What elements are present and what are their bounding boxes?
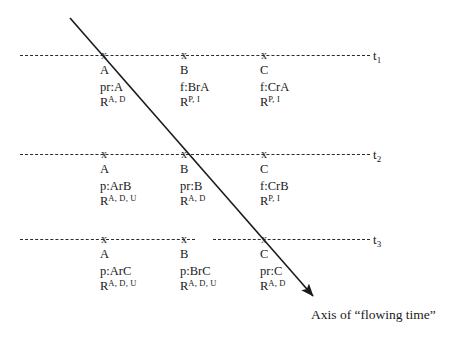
x-marker-t2-b: x [181, 148, 187, 160]
time-label-t3-sub: 3 [377, 239, 382, 249]
cell-t2-b-rset-sup: A, D [188, 193, 205, 203]
cell-t2-a-entity: A [100, 161, 137, 178]
cell-t3-b-rset-sup: A, D, U [188, 278, 216, 288]
cell-t2-a: A p:ArB RA, D, U [100, 161, 137, 210]
cell-t1-a: A pr:A RA, D [100, 62, 126, 111]
x-marker-t3-c: x [261, 233, 267, 245]
cell-t1-c: C f:CrA RP, I [260, 62, 289, 111]
cell-t3-c-rset: RA, D [260, 278, 286, 295]
cell-t3-c-rset-sup: A, D [268, 278, 285, 288]
cell-t1-c-relation: f:CrA [260, 79, 289, 96]
cell-t3-a-rset-sup: A, D, U [108, 278, 136, 288]
time-label-t3: t3 [373, 233, 381, 246]
flowing-time-axis-svg [0, 0, 455, 339]
cell-t2-b: B pr:B RA, D [180, 161, 206, 210]
time-label-t1-sub: 1 [377, 55, 382, 65]
cell-t1-b-relation: f:BrA [180, 79, 209, 96]
x-marker-t2-c: x [261, 148, 267, 160]
cell-t1-b-entity: B [180, 62, 209, 79]
cell-t2-c-rset-sup: P, I [268, 193, 280, 203]
cell-t1-c-entity: C [260, 62, 289, 79]
cell-t2-b-relation: pr:B [180, 178, 206, 195]
x-marker-t1-a: x [101, 49, 107, 61]
cell-t1-b-rset: RP, I [180, 94, 209, 111]
cell-t1-b-rset-sup: P, I [188, 94, 200, 104]
cell-t2-c-rset: RP, I [260, 193, 288, 210]
x-marker-t1-c: x [261, 49, 267, 61]
time-label-t1: t1 [373, 49, 381, 62]
cell-t1-a-rset: RA, D [100, 94, 126, 111]
cell-t3-a-rset: RA, D, U [100, 278, 137, 295]
x-marker-t2-a: x [101, 148, 107, 160]
cell-t1-a-rset-sup: A, D [108, 94, 125, 104]
x-marker-t3-b: x [181, 233, 187, 245]
cell-t3-c: C pr:C RA, D [260, 246, 286, 295]
cell-t3-a-entity: A [100, 246, 137, 263]
cell-t3-c-entity: C [260, 246, 286, 263]
cell-t2-a-rset: RA, D, U [100, 193, 137, 210]
timeline-t3-dashed-line-left [20, 239, 195, 240]
x-marker-t1-b: x [181, 49, 187, 61]
cell-t2-c-entity: C [260, 161, 288, 178]
cell-t2-c-relation: f:CrB [260, 178, 288, 195]
cell-t2-c: C f:CrB RP, I [260, 161, 288, 210]
time-diagram: x x x t1 A pr:A RA, D B f:BrA RP, I C f:… [0, 0, 455, 339]
x-marker-t3-a: x [101, 233, 107, 245]
cell-t3-c-relation: pr:C [260, 263, 286, 280]
cell-t3-b-entity: B [180, 246, 217, 263]
timeline-t1-dashed-line [20, 55, 370, 56]
cell-t3-a-relation: p:ArC [100, 263, 137, 280]
cell-t1-c-rset: RP, I [260, 94, 289, 111]
cell-t1-b: B f:BrA RP, I [180, 62, 209, 111]
timeline-t3-dashed-line-right [213, 239, 370, 240]
flowing-time-axis-caption: Axis of “flowing time” [311, 308, 436, 322]
cell-t3-a: A p:ArC RA, D, U [100, 246, 137, 295]
cell-t3-b-relation: p:BrC [180, 263, 217, 280]
cell-t2-b-entity: B [180, 161, 206, 178]
cell-t3-b-rset: RA, D, U [180, 278, 217, 295]
timeline-t2-dashed-line [20, 154, 370, 155]
cell-t1-a-relation: pr:A [100, 79, 126, 96]
cell-t2-b-rset: RA, D [180, 193, 206, 210]
cell-t1-a-entity: A [100, 62, 126, 79]
cell-t2-a-relation: p:ArB [100, 178, 137, 195]
time-label-t2-sub: 2 [377, 154, 382, 164]
cell-t3-b: B p:BrC RA, D, U [180, 246, 217, 295]
cell-t2-a-rset-sup: A, D, U [108, 193, 136, 203]
cell-t1-c-rset-sup: P, I [268, 94, 280, 104]
time-label-t2: t2 [373, 148, 381, 161]
